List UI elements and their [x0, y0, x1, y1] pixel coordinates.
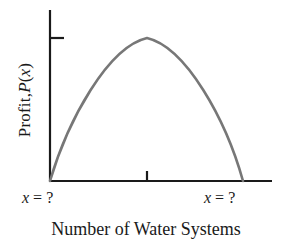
right-root-annotation: x = ? — [204, 189, 235, 207]
y-axis-label-variable: P — [15, 82, 35, 93]
y-axis-label: Profit, P(x) — [10, 20, 40, 180]
y-axis-label-paren-open: ( — [15, 76, 35, 82]
right-root-relation: = ? — [211, 189, 235, 206]
profit-curve — [50, 38, 243, 181]
profit-parabola-figure: Profit, P(x) x = ? x = ? Number of Water… — [0, 0, 292, 249]
x-axis-label: Number of Water Systems — [0, 219, 292, 240]
y-axis-label-prefix: Profit, — [15, 93, 35, 137]
left-root-relation: = ? — [29, 189, 53, 206]
left-root-annotation: x = ? — [22, 189, 53, 207]
y-axis-label-paren-close: ) — [15, 63, 35, 69]
plot-area — [0, 0, 292, 249]
y-axis-label-argument: x — [15, 69, 35, 77]
